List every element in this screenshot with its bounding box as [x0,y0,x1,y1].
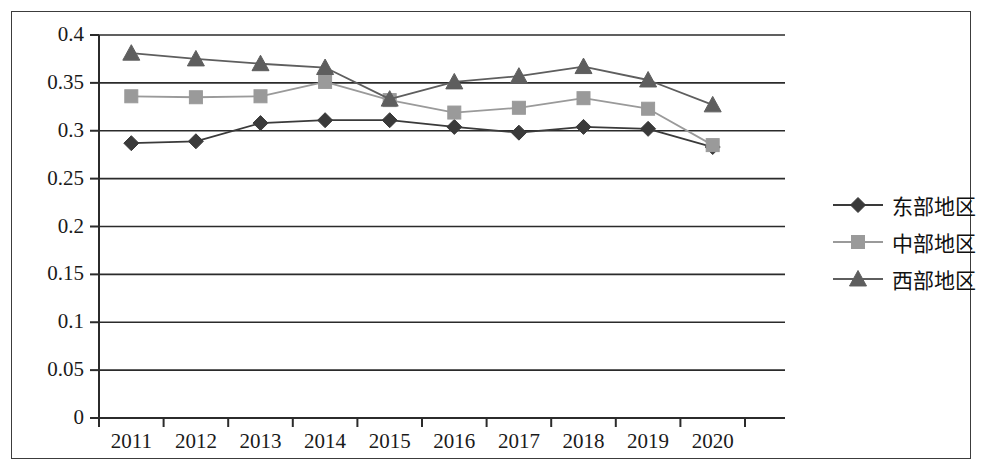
data-point-marker [124,136,139,151]
legend-label: 西部地区 [892,264,976,294]
data-point-marker [576,119,591,134]
data-point-marker [706,139,719,152]
data-point-marker [447,119,462,134]
chart-legend: 东部地区中部地区西部地区 [832,186,980,297]
series-line [131,120,712,147]
data-point-marker [188,134,203,149]
y-axis-label: 0.3 [0,120,84,141]
legend-marker-diamond-icon [832,195,884,215]
data-point-marker [641,121,656,136]
data-point-marker [575,58,592,73]
data-series-1 [124,113,720,155]
data-point-marker [512,101,525,114]
data-point-marker [511,125,526,140]
y-axis-label: 0 [0,407,84,428]
legend-marker-square-icon [832,232,884,252]
data-point-marker [642,102,655,115]
y-axis-label: 0.25 [0,168,84,189]
data-point-marker [125,90,138,103]
data-point-marker [253,116,268,131]
data-point-marker [704,96,721,111]
y-axis-label: 0.15 [0,263,84,284]
legend-label: 中部地区 [892,227,976,257]
y-axis-label: 0.4 [0,24,84,45]
data-point-marker [123,45,140,60]
legend-marker-triangle-icon [832,269,884,289]
data-point-marker [319,75,332,88]
y-axis-label: 0.1 [0,311,84,332]
legend-item-3: 西部地区 [832,260,980,297]
legend-item-1: 东部地区 [832,186,980,223]
data-point-marker [382,113,397,128]
y-axis-label: 0.05 [0,359,84,380]
y-axis-label: 0.2 [0,216,84,237]
x-axis-label: 2020 [673,431,753,452]
y-axis-label: 0.35 [0,72,84,93]
data-series-3 [123,45,721,112]
legend-label: 东部地区 [892,190,976,220]
data-series-2 [125,75,719,151]
data-point-marker [254,90,267,103]
data-point-marker [448,106,461,119]
data-point-marker [577,92,590,105]
data-series-layer [123,45,721,155]
data-point-marker [189,91,202,104]
axis-tickmarks [90,35,745,427]
chart-figure: 0.40.350.30.250.20.150.10.050 2011201220… [0,0,983,461]
data-point-marker [318,113,333,128]
legend-item-2: 中部地区 [832,223,980,260]
